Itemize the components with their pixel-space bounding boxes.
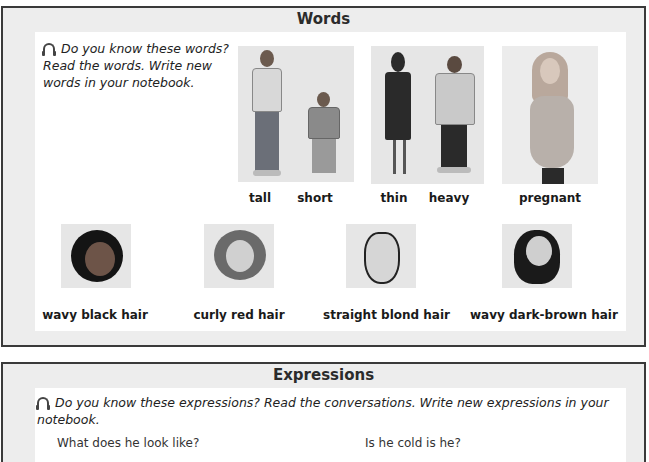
words-content: Do you know these words? Read the words.… [35,32,626,331]
short-man-pants [312,139,336,173]
label-short: short [293,191,337,205]
wavy-black-hair-picture [61,224,131,288]
label-tall: tall [245,191,275,205]
expressions-content: Do you know these expressions? Read the … [35,388,626,462]
label-curly-red-hair: curly red hair [185,308,293,322]
heavy-woman-pants [441,125,467,167]
short-man-head [317,92,330,107]
pregnant-woman-head [540,58,560,84]
label-wavy-black-hair: wavy black hair [35,308,155,322]
label-thin: thin [379,191,409,205]
tall-man-jeans [255,112,279,172]
tall-man-shirt [252,68,282,112]
thin-woman-dress [385,72,411,140]
label-heavy: heavy [427,191,471,205]
expressions-instruction: Do you know these expressions? Read the … [37,394,617,428]
tall-short-photo [238,46,354,182]
words-panel: Words Do you know these words? Read the … [1,6,646,347]
tall-man-head [260,50,274,67]
expressions-title: Expressions [3,364,644,386]
thin-heavy-photo [371,46,484,184]
curly-red-hair-picture [204,224,274,288]
conversation-left: What does he look like? [57,436,199,450]
conversation-right: Is he cold is he? [365,436,461,450]
words-instruction: Do you know these words? Read the words.… [43,40,233,91]
words-title: Words [3,8,644,30]
thin-woman-head [391,52,405,72]
pregnant-photo [502,46,598,184]
short-man-shirt [308,107,340,139]
headphones-icon[interactable] [37,397,49,408]
wavy-dark-brown-hair-picture [502,224,572,288]
expressions-panel: Expressions Do you know these expression… [1,362,646,462]
straight-blond-hair-picture [346,224,416,288]
label-pregnant: pregnant [515,191,585,205]
pregnant-woman-cardigan [530,96,574,168]
label-straight-blond-hair: straight blond hair [323,308,449,322]
label-wavy-dark-brown-hair: wavy dark-brown hair [470,308,615,322]
heavy-woman-shirt [435,73,475,125]
tall-man-shoes [253,170,281,176]
heavy-woman-head [447,56,462,73]
headphones-icon[interactable] [43,43,55,54]
